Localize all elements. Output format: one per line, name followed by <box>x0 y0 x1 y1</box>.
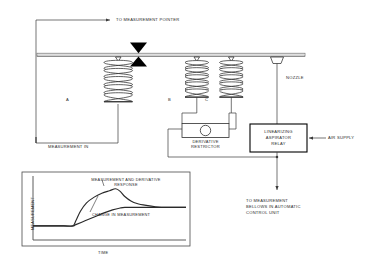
bellows-a <box>104 57 133 102</box>
nozzle-icon <box>271 57 284 124</box>
label-output-line2: BELLOWS IN AUTOMATIC <box>246 204 301 209</box>
bellows-c-label: C <box>205 97 208 102</box>
label-measurement-in: MEASUREMENT IN <box>48 144 89 149</box>
schematic-svg <box>0 0 370 267</box>
diagram-canvas: TO MEASUREMENT POINTER MEASUREMENT IN A … <box>0 0 370 267</box>
bellows-b-label: B <box>168 97 171 102</box>
bellows-a-label: A <box>66 97 69 102</box>
label-air-supply: AIR SUPPLY <box>328 135 354 140</box>
chart-y-axis-label: MEASUREMENT <box>30 197 35 230</box>
label-relay-line2: ASPIRATOR <box>250 135 307 140</box>
label-output-line3: CONTROL UNIT <box>246 210 280 215</box>
label-nozzle: NOZZLE <box>286 75 304 80</box>
chart-x-axis-label: TIME <box>98 250 108 255</box>
measurement-pointer-line <box>36 20 110 143</box>
derivative-restrictor-box <box>174 113 236 138</box>
chart-annotation-change-line1: CHANGE IN MEASUREMENT <box>92 212 150 217</box>
chart-annotation-response-line2: RESPONSE <box>76 182 176 187</box>
balance-beam <box>37 53 305 56</box>
relay-output-line <box>276 152 279 190</box>
label-output-line1: TO MEASUREMENT <box>246 198 288 203</box>
bellows-b <box>185 57 209 97</box>
measurement-in-line <box>36 104 118 143</box>
label-derivative-restrictor-line2: RESTRICTOR <box>182 144 229 149</box>
label-relay-line3: RELAY <box>250 141 307 146</box>
bellows-c <box>220 57 244 97</box>
label-relay-line1: LINEARIZING <box>250 129 307 134</box>
label-to-measurement-pointer: TO MEASUREMENT POINTER <box>116 17 179 22</box>
